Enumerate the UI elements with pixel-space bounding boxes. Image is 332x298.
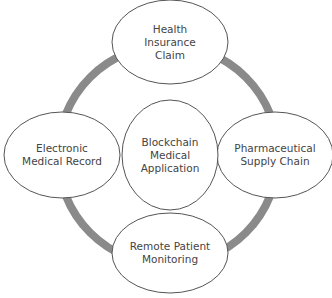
- node-right-label: Pharmaceutical Supply Chain: [217, 125, 332, 185]
- node-top-label: Health Insurance Claim: [112, 10, 228, 74]
- center-node-label: Blockchain Medical Application: [122, 120, 218, 190]
- node-bottom-label: Remote Patient Monitoring: [112, 225, 228, 281]
- node-left-label: Electronic Medical Record: [4, 125, 120, 185]
